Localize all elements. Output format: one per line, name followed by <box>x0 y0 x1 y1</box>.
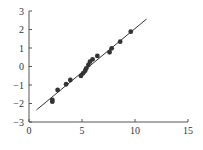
data-points <box>50 29 133 104</box>
y-tick-label: 1 <box>19 43 24 54</box>
data-point <box>64 82 69 87</box>
data-point <box>109 46 114 51</box>
y-tick-label: 2 <box>19 24 24 35</box>
data-point <box>50 99 55 104</box>
data-point <box>90 57 95 62</box>
x-tick-label: 0 <box>27 125 32 136</box>
data-point <box>55 88 60 93</box>
data-point <box>68 78 73 83</box>
y-tick-label: −3 <box>13 117 24 128</box>
y-tick-label: 3 <box>19 6 24 17</box>
axes <box>29 11 188 122</box>
y-tick-label: 0 <box>19 61 24 72</box>
scatter-chart: 051015 3210−1−2−3 <box>0 0 203 150</box>
data-point <box>95 54 100 59</box>
x-tick-label: 15 <box>183 125 193 136</box>
x-tick-label: 10 <box>130 125 140 136</box>
data-point <box>128 29 133 34</box>
x-tick-label: 5 <box>80 125 85 136</box>
y-tick-label: −2 <box>13 98 24 109</box>
y-tick-label: −1 <box>13 80 24 91</box>
data-point <box>118 39 123 44</box>
